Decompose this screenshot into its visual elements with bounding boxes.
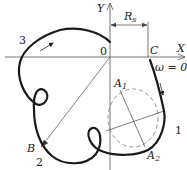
radius-label-sub: s [132,15,136,24]
direction-arrow-3-icon [40,43,53,51]
dashed-circle [108,89,158,147]
segment-label-2: 2 [36,157,43,168]
segment-label-3: 3 [19,35,26,46]
x-axis-label: X [177,43,185,54]
a1-sub: 1 [122,82,127,91]
point-a2-label: A2 [147,150,160,163]
radius-left-arrow-icon [111,23,116,27]
point-b-label: B [27,143,35,154]
radius-label: Rs [124,11,136,24]
omega-label: ω = 0 [155,62,187,73]
a2-main: A [147,149,155,162]
diameter-cross [106,111,164,131]
y-axis-label: Y [97,3,104,14]
trajectory-curve [19,29,165,164]
point-a1-label: A1 [114,78,127,91]
a2-sub: 2 [155,154,160,163]
radius-right-arrow-icon [142,23,147,27]
point-c-label: C [150,45,158,56]
segment-label-1: 1 [175,125,182,136]
a1-main: A [114,77,122,90]
origin-label: 0 [100,46,107,57]
